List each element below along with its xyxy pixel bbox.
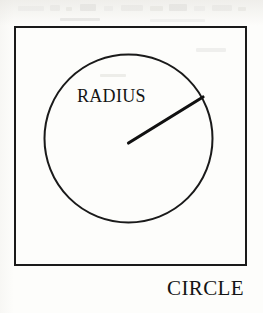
figure-caption: CIRCLE xyxy=(167,278,244,299)
circle-diagram-svg xyxy=(0,0,263,313)
circle-outline xyxy=(45,55,213,223)
figure-page: RADIUS CIRCLE xyxy=(0,0,263,313)
radius-label: RADIUS xyxy=(77,87,146,105)
